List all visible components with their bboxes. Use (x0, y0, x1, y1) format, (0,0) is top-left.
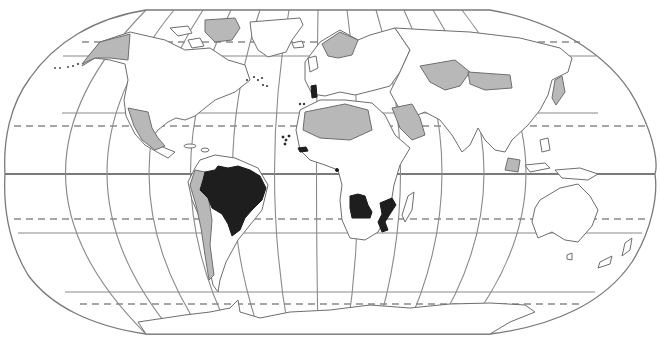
madagascar (402, 192, 414, 222)
sao-tome (336, 169, 339, 172)
iceland (292, 41, 304, 48)
scandinavia-relief (322, 32, 358, 58)
guinea-bissau (298, 147, 308, 152)
antarctica (138, 300, 535, 334)
arctic-islands (170, 18, 240, 48)
japan (552, 76, 565, 105)
tasmania (567, 253, 572, 260)
greenland (250, 18, 303, 57)
portugal (311, 85, 317, 98)
canary-islands (299, 103, 305, 105)
cape-verde (282, 135, 290, 145)
aleutian-islands (54, 63, 79, 69)
caribbean-islands (184, 144, 209, 152)
new-zealand (598, 238, 632, 268)
world-map (0, 0, 660, 348)
